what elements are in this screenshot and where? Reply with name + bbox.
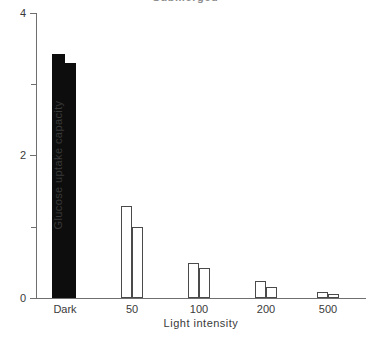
bar-chart-figure: Submerged 4 2 0 Dark 50 100 200 <box>0 0 371 337</box>
y-tick-4: 4 <box>30 13 36 14</box>
bar-dark-2 <box>65 63 76 298</box>
bar-100-2 <box>199 268 210 298</box>
x-label-500: 500 <box>319 303 337 315</box>
bar-50-1 <box>121 206 132 298</box>
y-axis-title: Glucose uptake capacity <box>52 75 64 255</box>
bar-200-2 <box>266 287 277 298</box>
y-axis-line <box>36 13 37 299</box>
x-axis-title: Light intensity <box>36 317 366 329</box>
clipped-figure-title: Submerged <box>0 0 371 3</box>
y-tick-label-4: 4 <box>20 6 26 20</box>
x-axis-line <box>36 298 366 299</box>
y-tick-0: 0 <box>30 298 36 299</box>
x-label-200: 200 <box>257 303 275 315</box>
x-label-100: 100 <box>190 303 208 315</box>
y-tick-label-0: 0 <box>20 291 26 305</box>
y-tick-1 <box>31 227 36 228</box>
bar-100-1 <box>188 263 199 298</box>
y-tick-3 <box>31 84 36 85</box>
bar-200-1 <box>255 281 266 298</box>
plot-area: 4 2 0 Dark 50 100 200 500 Glucose uptake… <box>36 13 366 299</box>
x-label-50: 50 <box>126 303 138 315</box>
bar-50-2 <box>132 227 143 298</box>
y-tick-label-2: 2 <box>20 148 26 162</box>
y-tick-2: 2 <box>30 155 36 156</box>
x-label-dark: Dark <box>53 303 76 315</box>
bar-500-2 <box>328 294 339 298</box>
bar-500-1 <box>317 292 328 298</box>
